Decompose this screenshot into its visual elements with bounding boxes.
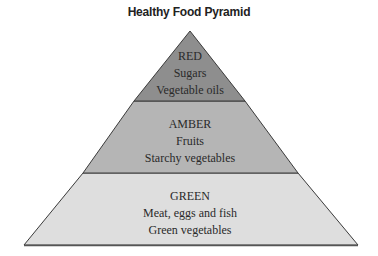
tier-amber-text: AMBER Fruits Starchy vegetables bbox=[110, 116, 270, 167]
tier-red-label: RED bbox=[130, 48, 250, 65]
tier-green-label: GREEN bbox=[100, 188, 280, 205]
tier-amber-item: Starchy vegetables bbox=[110, 150, 270, 167]
tier-green-item: Meat, eggs and fish bbox=[100, 205, 280, 222]
tier-green-item: Green vegetables bbox=[100, 222, 280, 239]
tier-amber-item: Fruits bbox=[110, 133, 270, 150]
tier-red-item: Sugars bbox=[130, 65, 250, 82]
tier-red-text: RED Sugars Vegetable oils bbox=[130, 48, 250, 99]
tier-amber-label: AMBER bbox=[110, 116, 270, 133]
tier-green-text: GREEN Meat, eggs and fish Green vegetabl… bbox=[100, 188, 280, 239]
tier-red-item: Vegetable oils bbox=[130, 82, 250, 99]
